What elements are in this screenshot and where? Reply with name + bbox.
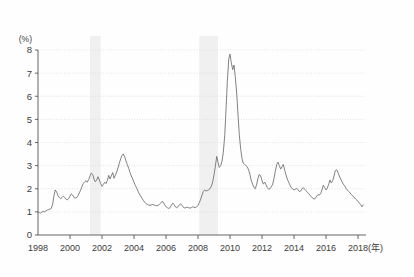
x-axis-tick-label: 2014 bbox=[284, 243, 304, 253]
x-axis-tick-label: 2004 bbox=[124, 243, 144, 253]
y-axis-tick-label: 5 bbox=[27, 114, 32, 125]
chart-figure: 012345678 199820002002200420062008201020… bbox=[0, 0, 414, 277]
y-axis-tick-label: 4 bbox=[27, 137, 32, 148]
x-axis-tick-label: 2002 bbox=[92, 243, 112, 253]
y-axis-tick-label: 0 bbox=[27, 229, 32, 240]
line-chart: 012345678 199820002002200420062008201020… bbox=[0, 0, 414, 277]
y-axis-tick-label: 8 bbox=[27, 44, 32, 55]
y-axis-tick-label: 6 bbox=[27, 91, 32, 102]
y-axis-tick-label: 7 bbox=[27, 68, 32, 79]
y-axis-tick-label: 3 bbox=[27, 160, 32, 171]
x-axis-tick-label: 2008 bbox=[188, 243, 208, 253]
x-axis-tick-label: 2000 bbox=[60, 243, 80, 253]
x-axis-tick-label: 2006 bbox=[156, 243, 176, 253]
y-axis-unit-label: (%) bbox=[19, 34, 32, 44]
y-axis-tick-label: 2 bbox=[27, 183, 32, 194]
x-axis-tick-label: 1998 bbox=[28, 243, 48, 253]
x-axis-tick-label: 2010 bbox=[220, 243, 240, 253]
x-axis-tick-label: 2016 bbox=[316, 243, 336, 253]
recession-band-1 bbox=[199, 36, 218, 235]
y-axis-tick-label: 1 bbox=[27, 206, 32, 217]
x-axis-tick-label: 2018 bbox=[348, 243, 368, 253]
x-axis-unit-label: (年) bbox=[368, 242, 383, 253]
x-axis-tick-label: 2012 bbox=[252, 243, 272, 253]
recession-band-0 bbox=[90, 36, 101, 235]
